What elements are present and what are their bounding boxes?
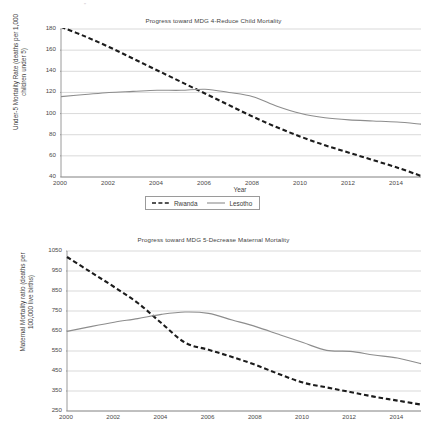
x-tick-label: 2002	[93, 179, 123, 186]
x-tick-label: 2000	[51, 413, 81, 420]
x-tick-label: 2004	[145, 413, 175, 420]
solid-line-swatch	[207, 200, 225, 206]
y-tick-label: 450	[32, 366, 62, 373]
legend-entry-rwanda: Rwanda	[152, 200, 197, 207]
y-tick-label: 650	[32, 326, 62, 333]
y-tick-label: 140	[26, 66, 56, 73]
plot-svg-maternal-mortality	[66, 250, 422, 412]
x-tick-label: 2010	[285, 179, 315, 186]
series-line-lesotho	[67, 312, 421, 364]
plot-area-child-mortality: 4060801001201401601802000200220042006200…	[60, 28, 420, 176]
x-tick-label: 2004	[141, 179, 171, 186]
plot-area-maternal-mortality: 2503504505506507508509501050200020022004…	[66, 250, 420, 410]
x-axis-title-child-mortality: Year	[60, 186, 420, 193]
y-tick-label: 250	[32, 406, 62, 413]
y-tick-label: 750	[32, 306, 62, 313]
y-tick-label: 1050	[32, 246, 62, 253]
chart-child-mortality: Progress toward MDG 4-Reduce Child Morta…	[0, 6, 427, 196]
y-tick-label: 950	[32, 266, 62, 273]
x-tick-label: 2000	[45, 179, 75, 186]
y-tick-label: 850	[32, 286, 62, 293]
y-tick-label: 100	[26, 109, 56, 116]
dashed-line-swatch	[152, 200, 170, 206]
series-line-lesotho	[61, 89, 421, 124]
chart-title-maternal-mortality: Progress toward MDG 5-Decrease Maternal …	[0, 236, 427, 243]
x-tick-label: 2012	[334, 413, 364, 420]
chart-legend: Rwanda Lesotho	[145, 196, 260, 210]
y-tick-label: 80	[26, 130, 56, 137]
chart-title-child-mortality: Progress toward MDG 4-Reduce Child Morta…	[0, 17, 427, 24]
y-tick-label: 550	[32, 346, 62, 353]
legend-entry-lesotho: Lesotho	[207, 200, 252, 207]
x-tick-label: 2006	[193, 413, 223, 420]
legend-label-rwanda: Rwanda	[174, 200, 197, 207]
y-tick-label: 120	[26, 87, 56, 94]
x-tick-label: 2010	[287, 413, 317, 420]
y-tick-label: 40	[26, 172, 56, 179]
x-tick-label: 2012	[333, 179, 363, 186]
chart-page: '' Progress toward MDG 4-Reduce Child Mo…	[0, 0, 427, 434]
legend-label-lesotho: Lesotho	[229, 200, 252, 207]
plot-svg-child-mortality	[60, 28, 422, 178]
x-tick-label: 2008	[237, 179, 267, 186]
x-tick-label: 2008	[240, 413, 270, 420]
y-axis-title-child-mortality: Under-5 Mortality Rate (deaths per 1,000…	[12, 0, 28, 147]
y-tick-label: 350	[32, 386, 62, 393]
x-tick-label: 2014	[381, 179, 411, 186]
y-tick-label: 60	[26, 151, 56, 158]
x-tick-label: 2006	[189, 179, 219, 186]
x-tick-label: 2002	[98, 413, 128, 420]
y-tick-label: 180	[26, 24, 56, 31]
y-tick-label: 160	[26, 45, 56, 52]
x-tick-label: 2014	[381, 413, 411, 420]
chart-maternal-mortality: Progress toward MDG 5-Decrease Maternal …	[0, 228, 427, 434]
